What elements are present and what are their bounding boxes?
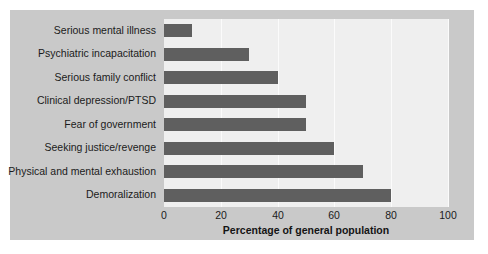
bar-row — [164, 95, 448, 108]
y-axis-category-labels: Serious mental illnessPsychiatric incapa… — [18, 19, 160, 207]
bar — [164, 165, 363, 178]
bar-row — [164, 142, 448, 155]
bar — [164, 118, 306, 131]
bar — [164, 24, 192, 37]
bar-row — [164, 118, 448, 131]
category-label: Clinical depression/PTSD — [37, 95, 156, 106]
category-label: Serious family conflict — [54, 72, 156, 83]
bar — [164, 95, 306, 108]
bar-row — [164, 24, 448, 37]
bar — [164, 48, 249, 61]
category-label: Seeking justice/revenge — [45, 142, 157, 153]
x-tick-label-20: 20 — [215, 209, 227, 221]
bar-row — [164, 71, 448, 84]
category-label: Serious mental illness — [54, 25, 156, 36]
x-tick-label-100: 100 — [439, 209, 457, 221]
bar — [164, 189, 391, 202]
x-tick-label-40: 40 — [272, 209, 284, 221]
gridline-100 — [448, 19, 449, 207]
bar — [164, 142, 334, 155]
bar-row — [164, 189, 448, 202]
bars-group — [164, 19, 448, 207]
category-label: Psychiatric incapacitation — [38, 48, 156, 59]
x-axis-title: Percentage of general population — [164, 224, 448, 236]
x-tick-label-60: 60 — [328, 209, 340, 221]
x-tick-label-80: 80 — [385, 209, 397, 221]
chart-panel: Serious mental illnessPsychiatric incapa… — [10, 10, 474, 240]
category-label: Fear of government — [64, 119, 156, 130]
x-tick-label-0: 0 — [161, 209, 167, 221]
category-label: Physical and mental exhaustion — [8, 166, 156, 177]
chart-figure: Serious mental illnessPsychiatric incapa… — [0, 0, 488, 254]
bar-row — [164, 48, 448, 61]
plot-area — [164, 19, 448, 207]
bar — [164, 71, 278, 84]
bar-row — [164, 165, 448, 178]
category-label: Demoralization — [86, 189, 156, 200]
